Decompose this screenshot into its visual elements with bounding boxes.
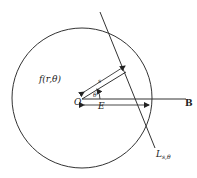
projection-line bbox=[100, 12, 155, 148]
line-label-sub: s,θ bbox=[162, 153, 171, 160]
b-label: B bbox=[185, 98, 193, 108]
origin-label: O bbox=[74, 97, 82, 107]
support-circle bbox=[12, 28, 152, 168]
e-label: E bbox=[97, 101, 105, 111]
line-label: Ls,θ bbox=[155, 149, 171, 160]
radon-diagram: f(r,θ) O θ s E B Ls,θ bbox=[0, 0, 197, 178]
s-label: s bbox=[98, 77, 101, 84]
line-label-main: L bbox=[155, 149, 162, 159]
normal-ray bbox=[82, 72, 126, 99]
theta-arc bbox=[97, 89, 100, 99]
function-label: f(r,θ) bbox=[38, 74, 61, 84]
normal-ray-parallel bbox=[84, 66, 125, 92]
theta-label: θ bbox=[93, 91, 97, 98]
